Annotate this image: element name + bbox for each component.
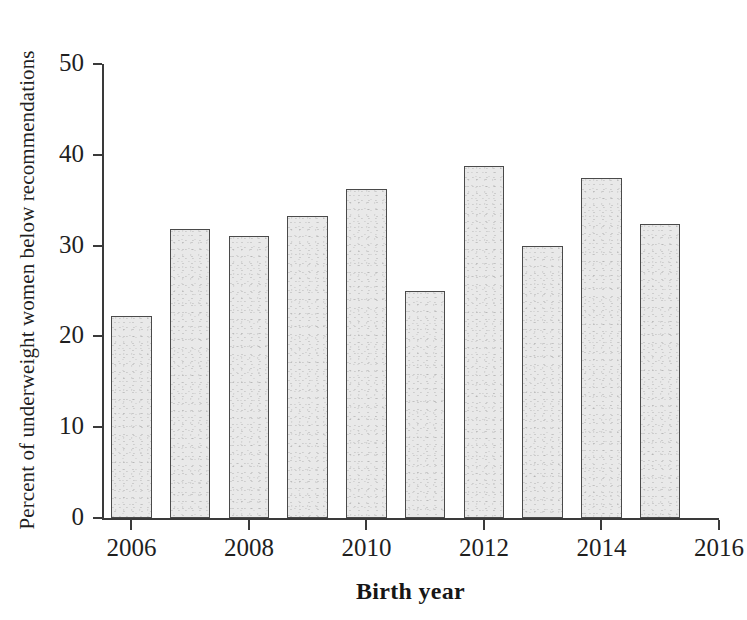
x-tick-label: 2012 [459,534,509,562]
y-tick: 10 [93,426,102,428]
x-tick-label: 2006 [106,534,156,562]
y-tick-label: 10 [59,413,84,438]
x-tick [130,520,132,530]
bar [522,246,563,518]
y-tick-label: 20 [59,322,84,347]
y-tick-label: 30 [59,232,84,257]
bar [581,178,622,519]
x-tick [483,520,485,530]
y-tick: 40 [93,154,102,156]
y-tick: 0 [93,517,102,519]
plot-area: 01020304050 200620082010201220142016 [102,64,719,520]
y-tick-label: 0 [72,504,85,529]
bar [229,236,270,518]
x-tick [718,520,720,530]
x-axis-title: Birth year [102,578,719,605]
bar [287,216,328,518]
x-tick-label: 2016 [694,534,744,562]
bar [640,224,681,518]
x-tick-label: 2014 [576,534,626,562]
y-axis-title: Percent of underweight women below recom… [10,20,44,560]
x-axis-line [102,518,719,520]
y-tick: 50 [93,63,102,65]
bar [111,316,152,518]
y-tick: 20 [93,335,102,337]
x-tick-label: 2010 [341,534,391,562]
x-tick [365,520,367,530]
x-tick [248,520,250,530]
y-tick-label: 50 [59,50,84,75]
bar [464,166,505,518]
y-tick: 30 [93,245,102,247]
y-axis-line [102,64,104,520]
y-tick-label: 40 [59,141,84,166]
x-tick [600,520,602,530]
bar-chart-figure: Percent of underweight women below recom… [0,0,747,620]
x-tick-label: 2008 [224,534,274,562]
bar [170,229,211,518]
bar [346,189,387,518]
bar [405,291,446,518]
